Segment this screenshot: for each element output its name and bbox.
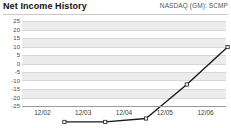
gridline-band: [22, 21, 226, 30]
gridline: [22, 30, 226, 31]
gridline: [22, 21, 226, 22]
y-axis-tick-label: -10: [11, 78, 20, 84]
y-axis-tick-label: 0: [17, 61, 20, 67]
header-divider: [3, 14, 228, 15]
x-axis-tick-labels: 12/0212/0312/0412/0512/06: [0, 109, 231, 121]
plot-area: [22, 21, 226, 106]
x-axis-tick-label: 12/06: [197, 109, 213, 117]
gridline: [22, 38, 226, 39]
x-axis-tick-label: 12/04: [116, 109, 132, 117]
y-axis-tick-labels: 2520151050-5-10-15-20-25: [0, 21, 21, 106]
widget-header: Net Income History NASDAQ (GM): SCMP: [0, 0, 231, 15]
ticker-symbol-label: NASDAQ (GM): SCMP: [160, 2, 228, 9]
y-axis-tick-label: 10: [13, 44, 20, 50]
y-axis-tick-label: -5: [15, 69, 20, 75]
data-point-marker: [226, 46, 229, 49]
page-title: Net Income History: [3, 1, 87, 11]
data-point-marker: [185, 83, 188, 86]
y-axis-tick-label: -20: [11, 95, 20, 101]
net-income-history-chart-widget: Net Income History NASDAQ (GM): SCMP 252…: [0, 0, 231, 128]
y-axis-tick-label: 15: [13, 35, 20, 41]
x-axis-tick-label: 12/05: [157, 109, 173, 117]
x-axis-tick-label: 12/02: [34, 109, 50, 117]
x-axis-tick-label: 12/03: [75, 109, 91, 117]
x-axis-line: [22, 106, 226, 107]
y-axis-tick-label: -15: [11, 86, 20, 92]
y-axis-tick-label: 25: [13, 18, 20, 24]
y-axis-tick-label: 5: [17, 52, 20, 58]
y-axis-tick-label: 20: [13, 27, 20, 33]
